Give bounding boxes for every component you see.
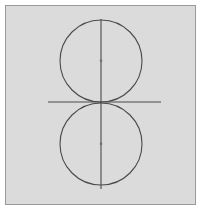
figure-canvas	[0, 0, 202, 211]
geometry-figure: × ×	[0, 0, 202, 211]
